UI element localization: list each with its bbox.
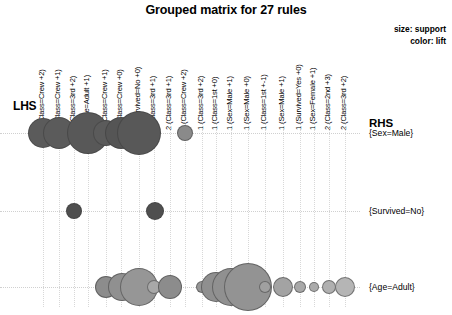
bubble[interactable] [309,282,319,292]
row-label-1: {Survived=No} [369,206,424,216]
bubble[interactable] [66,203,82,219]
row-label-2: {Age=Adult} [369,282,415,292]
bubble[interactable] [273,277,293,297]
bubble[interactable] [146,202,164,220]
bubble[interactable] [294,281,306,293]
gridline-horizontal [0,211,360,212]
gridline-vertical [300,122,301,307]
grouped-matrix-chart: Grouped matrix for 27 rules size: suppor… [0,0,452,315]
column-labels: 1 (Class=Crew +2)1 (Class=Crew +1)1 (Cla… [0,0,452,130]
bubble[interactable] [322,280,336,294]
gridline-vertical [314,122,315,307]
column-label-16: 1 (Survived=Yes +0) [294,64,303,130]
plot-area: {Sex=Male}{Survived=No}{Age=Adult} [0,122,360,307]
bubble[interactable] [177,125,193,141]
bubble[interactable] [117,111,161,155]
gridline-vertical [43,122,44,307]
gridline-vertical [185,122,186,307]
column-label-17: 1 (Sex=Female +1) [308,68,317,130]
row-label-0: {Sex=Male} [369,128,413,138]
bubble[interactable] [259,281,271,293]
gridline-vertical [59,122,60,307]
bubble[interactable] [335,277,355,297]
column-label-9: 2 (Class=Crew +2) [179,69,188,130]
bubble[interactable] [158,275,182,299]
